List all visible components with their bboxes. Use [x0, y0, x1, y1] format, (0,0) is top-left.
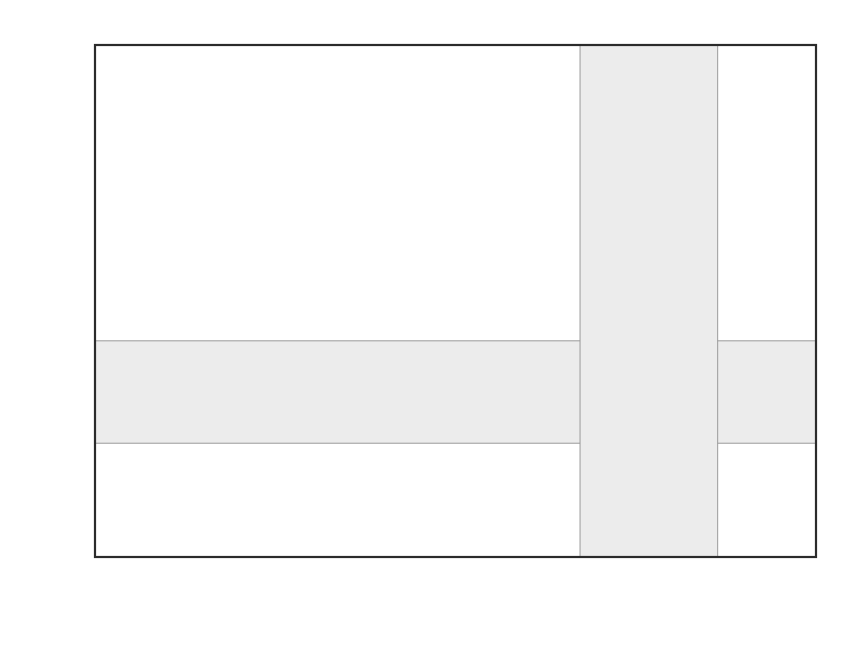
shaded-band-vertical: [580, 45, 718, 557]
figure-container: [0, 0, 860, 663]
scatter-plot: [0, 0, 860, 663]
